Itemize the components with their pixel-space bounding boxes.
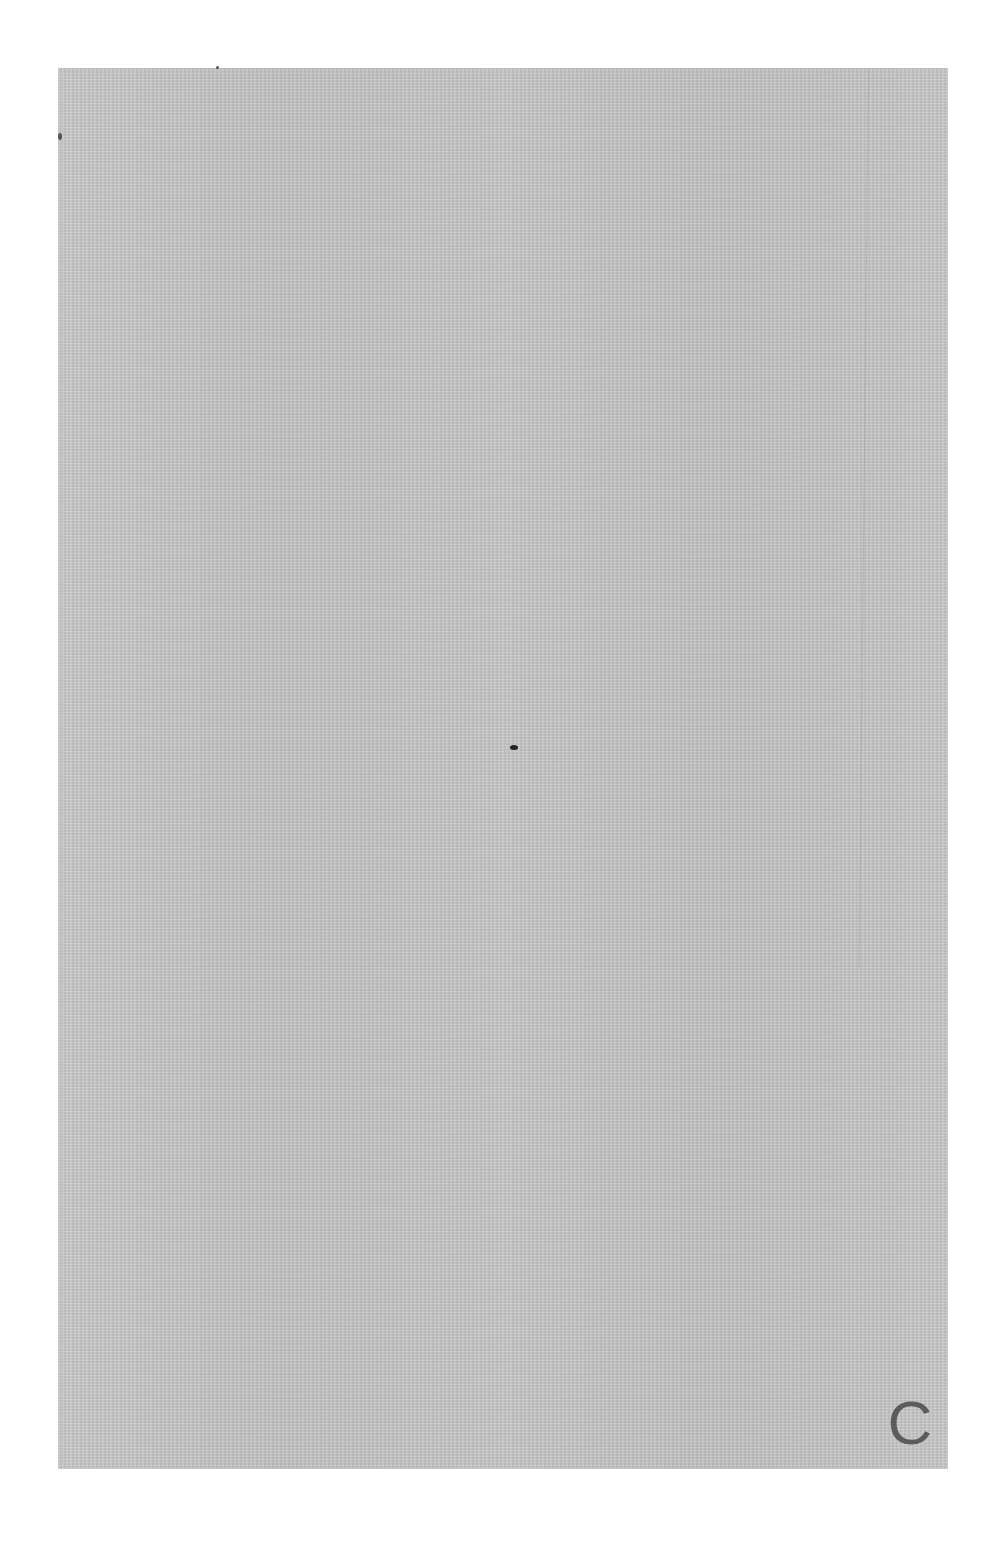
scanned-page: C <box>58 68 948 1469</box>
dust-speck <box>216 66 219 69</box>
corner-mark: C <box>880 1393 940 1453</box>
paper-fold-line <box>859 68 869 968</box>
ink-speck <box>510 745 518 750</box>
dust-speck <box>58 133 62 140</box>
